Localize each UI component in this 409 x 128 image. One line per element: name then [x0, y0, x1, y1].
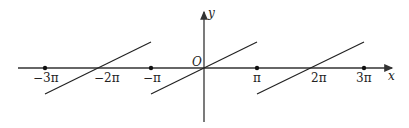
label-pi: π: [253, 71, 261, 85]
label-origin: O: [192, 55, 202, 69]
point-3pi: [362, 66, 366, 70]
label-3pi: 3π: [356, 71, 372, 85]
label-neg2pi: −2π: [94, 71, 120, 85]
label-x-axis: x: [388, 69, 395, 83]
point-neg3pi: [43, 66, 47, 70]
label-2pi: 2π: [311, 71, 327, 85]
point-negpi: [149, 66, 153, 70]
point-pi: [255, 66, 259, 70]
label-y-axis: y: [207, 6, 215, 20]
label-neg3pi: −3π: [33, 71, 59, 85]
label-negpi: −π: [143, 71, 161, 85]
function-graph: −3π −2π −π O π 2π 3π x y: [0, 0, 409, 128]
